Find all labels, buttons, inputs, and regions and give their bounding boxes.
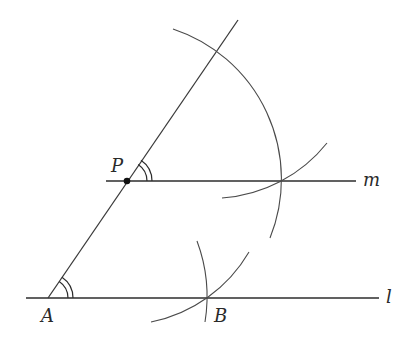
construction-arc-on-m xyxy=(222,143,327,198)
transversal-line xyxy=(48,20,238,298)
point-p-dot xyxy=(124,178,131,185)
label-m: m xyxy=(363,171,380,189)
construction-arc-through-b-vertical xyxy=(197,241,207,322)
angle-mark-a-inner xyxy=(59,281,68,298)
label-a: A xyxy=(41,307,54,325)
construction-diagram xyxy=(0,0,408,339)
label-l: l xyxy=(386,288,392,306)
angle-mark-p-inner xyxy=(138,164,147,181)
construction-arc-through-b-sweep xyxy=(151,252,249,322)
label-b: B xyxy=(214,307,227,325)
label-p: P xyxy=(111,157,123,175)
construction-arc-large xyxy=(173,29,281,238)
